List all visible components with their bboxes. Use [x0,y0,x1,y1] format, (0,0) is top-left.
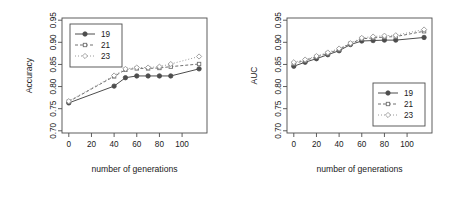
x-tick-label: 80 [155,140,165,149]
y-tick-label: 0.95 [275,12,284,28]
series-line [294,31,424,63]
legend-label: 21 [404,100,414,109]
series-group [291,27,426,69]
x-tick-label: 20 [312,140,322,149]
x-tick-label: 20 [87,140,97,149]
x-tick-label: 40 [110,140,120,149]
marker-filled-circle [135,74,139,78]
marker-filled-circle [386,91,390,95]
marker-open-square [83,43,86,46]
marker-filled-circle [197,67,201,71]
x-axis-title: number of generations [317,164,403,174]
y-tick-label: 0.70 [275,122,284,138]
marker-filled-circle [146,74,150,78]
marker-open-square [197,62,200,65]
x-axis-title: number of generations [92,164,178,174]
x-tick-label: 60 [132,140,142,149]
plot-root: 0.700.750.800.850.900.95020406080100numb… [249,12,432,174]
y-tick-label: 0.75 [275,100,284,116]
series-19 [292,35,427,68]
x-tick-label: 80 [380,140,390,149]
x-axis: 020406080100 [67,133,190,149]
y-tick-label: 0.80 [50,78,59,94]
panel-auc: 0.700.750.800.850.900.95020406080100numb… [225,0,450,200]
legend: 192123 [373,83,425,126]
legend-label: 21 [101,41,111,50]
y-axis: 0.700.750.800.850.900.95 [50,12,63,139]
x-tick-label: 100 [175,140,189,149]
plot-root: 0.700.750.800.850.900.95020406080100numb… [24,12,207,174]
legend-label: 19 [101,30,111,39]
marker-filled-circle [169,74,173,78]
legend-label: 23 [101,52,111,61]
x-tick-label: 100 [400,140,414,149]
marker-filled-circle [157,74,161,78]
y-tick-label: 0.90 [50,34,59,50]
series-21 [67,62,201,103]
y-tick-label: 0.90 [275,34,284,50]
x-tick-label: 40 [335,140,345,149]
legend-label: 19 [404,89,414,98]
marker-filled-circle [83,32,87,36]
x-axis: 020406080100 [292,133,415,149]
y-tick-label: 0.85 [275,56,284,72]
series-line [294,37,424,66]
y-axis-title: AUC [249,66,259,84]
marker-filled-circle [112,84,116,88]
y-tick-label: 0.75 [50,100,59,116]
legend: 192123 [70,24,122,67]
marker-filled-circle [422,35,426,39]
accuracy-plot: 0.700.750.800.850.900.95020406080100numb… [0,0,225,200]
series-19 [67,67,202,105]
marker-filled-circle [123,76,127,80]
auc-plot: 0.700.750.800.850.900.95020406080100numb… [225,0,450,200]
marker-open-diamond [196,54,201,59]
figure-two-panel-chart: 0.700.750.800.850.900.95020406080100numb… [0,0,450,200]
marker-open-square [386,102,389,105]
x-tick-label: 0 [67,140,72,149]
y-tick-label: 0.80 [275,78,284,94]
y-tick-label: 0.70 [50,122,59,138]
panel-accuracy: 0.700.750.800.850.900.95020406080100numb… [0,0,225,200]
series-line [69,69,199,103]
y-axis: 0.700.750.800.850.900.95 [275,12,288,139]
y-tick-label: 0.85 [50,56,59,72]
series-23 [291,27,426,65]
legend-label: 23 [404,111,414,120]
x-tick-label: 0 [292,140,297,149]
series-line [294,30,424,63]
y-axis-title: Accuracy [24,57,34,93]
y-tick-label: 0.95 [50,12,59,28]
x-tick-label: 60 [357,140,367,149]
